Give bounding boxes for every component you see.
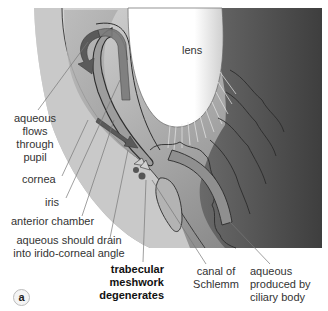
label-aqueous-produced-by-ciliary-body: aqueous produced by ciliary body (250, 265, 311, 304)
label-cornea: cornea (22, 173, 56, 186)
label-anterior-chamber: anterior chamber (11, 215, 94, 228)
label-trabecular-meshwork-degenerates: trabecular meshwork degenerates (98, 263, 164, 302)
label-lens: lens (182, 44, 202, 57)
label-aqueous-should-drain: aqueous should drain into irido-corneal … (6, 234, 132, 260)
label-canal-of-schlemm: canal of Schlemm (190, 265, 242, 291)
panel-label-badge: a (13, 289, 30, 306)
label-iris: iris (45, 196, 59, 209)
label-aqueous-flows-through-pupil: aqueous flows through pupil (8, 112, 62, 164)
